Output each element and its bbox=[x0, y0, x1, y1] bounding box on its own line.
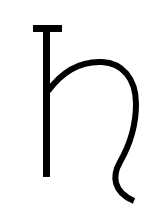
curved-tail bbox=[48, 62, 136, 201]
vertical-stem bbox=[43, 30, 50, 177]
saturn-symbol-icon bbox=[0, 0, 151, 208]
